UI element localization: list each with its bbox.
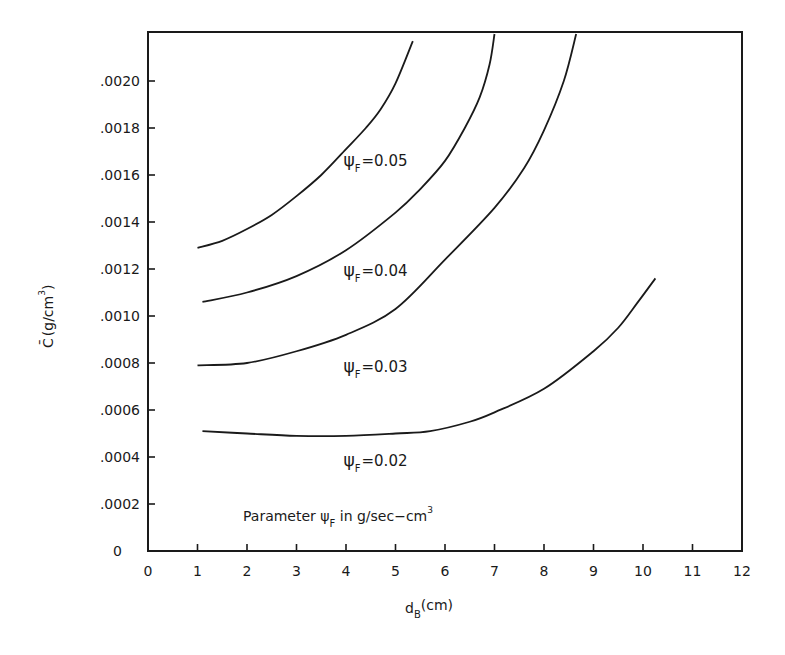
y-tick-label: .0008 bbox=[100, 355, 140, 371]
y-axis-label: C̄(g/cm3) bbox=[37, 285, 56, 348]
plot-frame bbox=[148, 32, 742, 551]
x-tick-label: 3 bbox=[292, 563, 301, 579]
series-label: ψF=0.04 bbox=[344, 260, 408, 284]
y-tick-label: 0 bbox=[113, 543, 122, 559]
series-curves bbox=[198, 34, 656, 436]
curve-psi-0-02 bbox=[202, 278, 655, 436]
y-tick-label: .0020 bbox=[100, 73, 140, 89]
x-tick-label: 10 bbox=[634, 563, 652, 579]
x-tick-label: 4 bbox=[342, 563, 351, 579]
y-tick-label: .0014 bbox=[100, 214, 140, 230]
y-tick-label: .0002 bbox=[100, 496, 140, 512]
series-label: ψF=0.05 bbox=[344, 150, 408, 174]
x-axis-label: dB(cm) bbox=[405, 597, 453, 620]
series-label: ψF=0.02 bbox=[344, 450, 408, 474]
x-tick-label: 1 bbox=[193, 563, 202, 579]
curve-psi-0-05 bbox=[198, 41, 413, 248]
x-tick-label: 12 bbox=[733, 563, 751, 579]
parameter-annotation: Parameter ψF in g/sec−cm3 bbox=[243, 505, 433, 529]
y-tick-label: .0004 bbox=[100, 449, 140, 465]
chart: 0123456789101112 0.0002.0004.0006.0008.0… bbox=[0, 0, 785, 655]
y-axis: 0.0002.0004.0006.0008.0010.0012.0014.001… bbox=[100, 73, 155, 559]
y-tick-label: .0010 bbox=[100, 308, 140, 324]
x-tick-label: 7 bbox=[490, 563, 499, 579]
x-axis: 0123456789101112 bbox=[144, 544, 751, 579]
x-tick-label: 0 bbox=[144, 563, 153, 579]
x-tick-label: 6 bbox=[441, 563, 450, 579]
x-tick-label: 5 bbox=[391, 563, 400, 579]
x-tick-label: 8 bbox=[540, 563, 549, 579]
x-tick-label: 2 bbox=[243, 563, 252, 579]
axes-box bbox=[148, 32, 742, 551]
x-tick-label: 11 bbox=[684, 563, 702, 579]
x-tick-label: 9 bbox=[589, 563, 598, 579]
series-labels: ψF=0.05ψF=0.04ψF=0.03ψF=0.02 bbox=[344, 150, 408, 475]
y-tick-label: .0012 bbox=[100, 261, 140, 277]
series-label: ψF=0.03 bbox=[344, 356, 408, 380]
curve-psi-0-03 bbox=[198, 34, 577, 365]
y-tick-label: .0006 bbox=[100, 402, 140, 418]
y-tick-label: .0018 bbox=[100, 120, 140, 136]
y-tick-label: .0016 bbox=[100, 167, 140, 183]
